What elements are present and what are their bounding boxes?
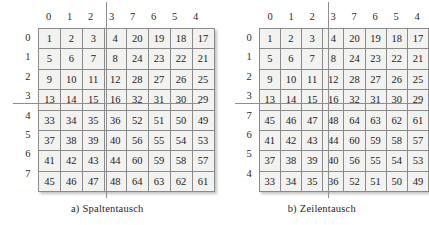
matrix-cell: 22 (170, 49, 192, 69)
row-header-cell: 0 (18, 28, 38, 47)
table-row: 1 2 3 4 20 19 18 17 (259, 29, 428, 49)
matrix-cell: 14 (280, 90, 301, 110)
matrix-cell: 44 (323, 131, 344, 151)
matrix-cell: 50 (386, 171, 407, 191)
matrix-cell: 22 (386, 49, 407, 69)
matrix-cell: 37 (259, 151, 280, 171)
row-header-column-b: 0 1 2 3 7 6 5 4 (240, 28, 259, 192)
matrix-cell: 49 (407, 171, 428, 191)
matrix-cell: 40 (323, 151, 344, 171)
matrix-cell: 57 (407, 131, 428, 151)
matrix-cell: 58 (170, 151, 192, 171)
table-row: 9 10 11 12 28 27 26 25 (259, 69, 428, 89)
caption-marker: b) (288, 203, 297, 214)
matrix-cell: 34 (280, 171, 301, 191)
matrix-cell: 32 (344, 90, 365, 110)
matrix-cell: 62 (386, 110, 407, 130)
matrix-cell: 32 (126, 90, 148, 110)
matrix-cell: 48 (323, 110, 344, 130)
matrix-cell: 43 (302, 131, 323, 151)
matrix-cell: 21 (192, 49, 214, 69)
matrix-cell: 35 (82, 110, 104, 130)
matrix-cell: 10 (60, 69, 82, 89)
matrix-cell: 47 (302, 110, 323, 130)
matrix-cell: 43 (82, 151, 104, 171)
matrix-cell: 19 (365, 29, 386, 49)
matrix-cell: 30 (386, 90, 407, 110)
matrix-cell: 55 (148, 131, 170, 151)
caption-text: Zeilentausch (300, 203, 356, 214)
matrix-cell: 19 (148, 29, 170, 49)
vertical-swap-divider (106, 2, 107, 198)
matrix-cell: 36 (104, 110, 126, 130)
matrix-cell: 34 (60, 110, 82, 130)
table-row: 33 34 35 36 52 51 50 49 (38, 110, 214, 130)
matrix-cell: 2 (280, 29, 301, 49)
matrix-cell: 7 (302, 49, 323, 69)
matrix-cell: 12 (323, 69, 344, 89)
row-header-cell: 2 (240, 67, 259, 86)
matrix-cell: 7 (82, 49, 104, 69)
column-header-cell: 0 (260, 8, 281, 26)
matrix-cell: 5 (259, 49, 280, 69)
caption-marker: a) (71, 203, 80, 214)
matrix-cell: 5 (38, 49, 60, 69)
matrix-cell: 64 (126, 171, 148, 191)
matrix-cell: 52 (344, 171, 365, 191)
row-header-cell: 6 (240, 125, 259, 144)
matrix-cell: 59 (365, 131, 386, 151)
matrix-cell: 33 (259, 171, 280, 191)
row-header-cell: 1 (240, 47, 259, 66)
row-header-cell: 5 (240, 144, 259, 163)
matrix-body-b: 0 1 2 3 7 6 5 4 1 2 3 4 (240, 28, 429, 192)
matrix-cell: 59 (148, 151, 170, 171)
row-header-cell: 5 (18, 125, 38, 144)
matrix-block-a: 0 1 2 3 7 6 5 4 0 1 2 3 4 5 6 7 (18, 8, 215, 192)
matrix-cell: 25 (192, 69, 214, 89)
column-header-cell: 7 (344, 8, 365, 26)
matrix-cell: 12 (104, 69, 126, 89)
matrix-cell: 6 (60, 49, 82, 69)
panel-caption-b: b)Zeilentausch (215, 203, 429, 214)
column-header-cell: 3 (323, 8, 344, 26)
table-row: 33 34 35 36 52 51 50 49 (259, 171, 428, 191)
row-header-column-a: 0 1 2 3 4 5 6 7 (18, 28, 38, 192)
column-header-cell: 1 (59, 8, 80, 26)
column-header-cell: 5 (386, 8, 407, 26)
matrix-cell: 17 (192, 29, 214, 49)
matrix-cell: 53 (192, 131, 214, 151)
matrix-cell: 18 (170, 29, 192, 49)
row-header-cell: 4 (240, 164, 259, 183)
matrix-cell: 44 (104, 151, 126, 171)
column-header-cell: 4 (185, 8, 206, 26)
matrix-cell: 26 (170, 69, 192, 89)
matrix-cell: 28 (126, 69, 148, 89)
matrix-cell: 46 (60, 171, 82, 191)
matrix-cell: 16 (323, 90, 344, 110)
matrix-cell: 18 (386, 29, 407, 49)
matrix-cell: 31 (365, 90, 386, 110)
matrix-cell: 53 (407, 151, 428, 171)
matrix-cell: 52 (126, 110, 148, 130)
matrix-cell: 20 (126, 29, 148, 49)
column-header-row-a: 0 1 2 3 7 6 5 4 (38, 8, 215, 26)
row-header-cell: 4 (18, 106, 38, 125)
matrix-cell: 13 (38, 90, 60, 110)
table-row: 41 42 43 44 60 59 58 57 (38, 151, 214, 171)
matrix-cell: 28 (344, 69, 365, 89)
matrix-table-a: 1 2 3 4 20 19 18 17 5 6 7 (38, 28, 215, 192)
matrix-cell: 3 (302, 29, 323, 49)
matrix-cell: 29 (407, 90, 428, 110)
matrix-cell: 54 (386, 151, 407, 171)
matrix-cell: 29 (192, 90, 214, 110)
table-row: 37 38 39 40 56 55 54 53 (38, 131, 214, 151)
matrix-cell: 2 (60, 29, 82, 49)
matrix-cell: 24 (126, 49, 148, 69)
column-header-cell: 2 (80, 8, 101, 26)
table-row: 37 38 39 40 56 55 54 53 (259, 151, 428, 171)
matrix-cell: 1 (38, 29, 60, 49)
table-row: 1 2 3 4 20 19 18 17 (38, 29, 214, 49)
column-header-cell: 4 (407, 8, 428, 26)
column-header-cell: 6 (365, 8, 386, 26)
matrix-cell: 61 (192, 171, 214, 191)
